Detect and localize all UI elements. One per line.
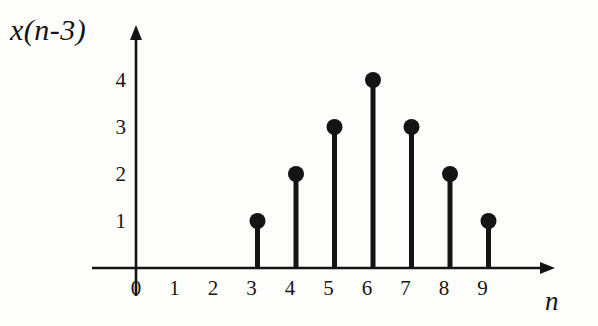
x-axis-arrowhead bbox=[540, 262, 555, 274]
x-tick-label: 2 bbox=[201, 276, 225, 301]
stem-marker bbox=[404, 119, 420, 135]
y-axis-arrowhead bbox=[130, 25, 142, 40]
x-tick-label: 0 bbox=[124, 276, 148, 301]
y-tick-label: 3 bbox=[104, 115, 126, 140]
x-tick-label: 6 bbox=[355, 276, 379, 301]
stem-marker bbox=[365, 72, 381, 88]
stem-marker bbox=[442, 166, 458, 182]
stem-point bbox=[288, 166, 304, 268]
x-tick-label: 1 bbox=[163, 276, 187, 301]
stem-point bbox=[365, 72, 381, 268]
stem-plot-figure: x(n-3) n 1234 0123456789 bbox=[0, 0, 598, 326]
stem-marker bbox=[250, 213, 266, 229]
stem-point bbox=[327, 119, 343, 268]
y-tick-label: 2 bbox=[104, 162, 126, 187]
x-axis-title: n bbox=[545, 286, 559, 317]
stem-marker bbox=[327, 119, 343, 135]
stem-marker bbox=[288, 166, 304, 182]
stem-point bbox=[442, 166, 458, 268]
stem-point bbox=[250, 213, 266, 268]
x-tick-label: 3 bbox=[240, 276, 264, 301]
x-tick-label: 9 bbox=[471, 276, 495, 301]
x-tick-label: 4 bbox=[278, 276, 302, 301]
stem-marker bbox=[481, 213, 497, 229]
stems-group bbox=[250, 72, 497, 268]
y-tick-label: 1 bbox=[104, 209, 126, 234]
axes-group bbox=[92, 25, 555, 296]
x-tick-label: 8 bbox=[432, 276, 456, 301]
y-tick-label: 4 bbox=[104, 68, 126, 93]
stem-point bbox=[404, 119, 420, 268]
x-tick-label: 7 bbox=[394, 276, 418, 301]
y-axis-title: x(n-3) bbox=[10, 13, 86, 47]
stem-point bbox=[481, 213, 497, 268]
x-tick-label: 5 bbox=[317, 276, 341, 301]
